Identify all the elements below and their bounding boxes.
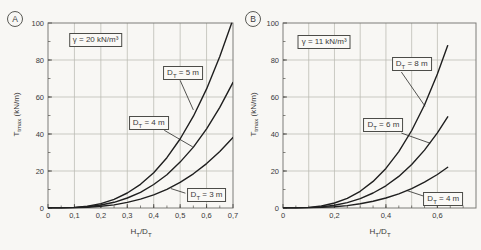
y-axis-title-a: Ttmax (kN/m)	[12, 67, 21, 163]
svg-text:80: 80	[271, 56, 279, 65]
y-axis-unit-b: (kN/m)	[249, 92, 258, 118]
chart-b-canvas: 00,20,40,6020406080100	[241, 0, 481, 250]
svg-text:100: 100	[266, 19, 279, 28]
svg-text:20: 20	[36, 167, 44, 176]
curve-label-dt-6m: DT = 6 m	[363, 118, 403, 132]
svg-text:0: 0	[281, 211, 285, 220]
curve-label-dt-3m: DT = 3 m	[187, 188, 227, 202]
svg-text:60: 60	[271, 93, 279, 102]
svg-text:40: 40	[36, 130, 44, 139]
gamma-annotation-b: γ = 11 kN/m³	[298, 35, 351, 49]
svg-text:0,5: 0,5	[175, 211, 185, 220]
x-axis-symbol2-a: /D	[140, 227, 148, 236]
x-axis-sub2-b: T	[387, 232, 391, 238]
svg-text:80: 80	[36, 56, 44, 65]
y-axis-subscript-b: tmax	[253, 119, 259, 132]
y-axis-unit-a: (kN/m)	[12, 92, 21, 118]
curve-label-dt-4m-b: DT = 4 m	[423, 192, 463, 206]
svg-text:0,3: 0,3	[122, 211, 132, 220]
chart-panel-a: A 00,10,20,30,40,50,60,7020406080100 Ttm…	[0, 0, 241, 250]
gamma-annotation-a: γ = 20 kN/m³	[69, 33, 123, 47]
svg-text:100: 100	[31, 19, 44, 28]
svg-text:0,4: 0,4	[148, 211, 158, 220]
svg-text:0,2: 0,2	[96, 211, 106, 220]
svg-text:0,7: 0,7	[228, 211, 238, 220]
svg-text:0,2: 0,2	[329, 211, 339, 220]
chart-panel-b: B 00,20,40,6020406080100 Ttmax (kN/m) HT…	[241, 0, 481, 250]
curve-label-value: = 8 m	[405, 59, 427, 68]
curve-label-value: = 3 m	[200, 190, 222, 199]
curve-label-dt-5m: DT = 5 m	[163, 66, 203, 80]
x-axis-sub2-a: T	[148, 232, 152, 238]
svg-text:0,6: 0,6	[432, 211, 442, 220]
y-axis-symbol-a: T	[12, 132, 21, 137]
curve-label-value: = 4 m	[142, 118, 164, 127]
figure: A 00,10,20,30,40,50,60,7020406080100 Ttm…	[0, 0, 481, 250]
x-axis-title-a: HT/DT	[101, 227, 181, 236]
y-axis-symbol-b: T	[249, 132, 258, 137]
svg-text:40: 40	[271, 130, 279, 139]
x-axis-title-b: HT/DT	[340, 227, 420, 236]
curve-label-dt-4m: DT = 4 m	[129, 116, 169, 130]
curve-label-dt-8m: DT = 8 m	[392, 57, 432, 71]
curve-label-value: = 4 m	[437, 194, 459, 203]
svg-text:0: 0	[40, 204, 44, 213]
svg-text:0: 0	[46, 211, 50, 220]
svg-text:0: 0	[275, 204, 279, 213]
svg-text:0,4: 0,4	[381, 211, 391, 220]
svg-text:0,6: 0,6	[201, 211, 211, 220]
curve-label-value: = 5 m	[177, 68, 199, 77]
y-axis-title-b: Ttmax (kN/m)	[249, 67, 258, 163]
svg-text:60: 60	[36, 93, 44, 102]
x-axis-symbol2-b: /D	[379, 227, 387, 236]
y-axis-subscript-a: tmax	[16, 119, 22, 132]
svg-text:0,1: 0,1	[69, 211, 79, 220]
svg-text:20: 20	[271, 167, 279, 176]
curve-label-value: = 6 m	[377, 120, 399, 129]
